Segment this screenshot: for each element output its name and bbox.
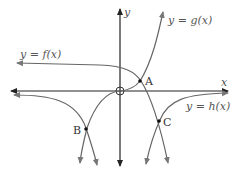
curve-g [120, 12, 163, 91]
curve-f [100, 65, 168, 163]
function-graph: A B C y x y = f(x) y = g(x) y = h(x) [0, 0, 235, 171]
curve-f-left-tail [17, 63, 100, 65]
curve-h-label: y = h(x) [185, 100, 230, 113]
curve-h-left-lower [86, 128, 97, 165]
y-axis-label: y [123, 6, 131, 19]
point-b-label: B [73, 124, 81, 137]
point-a-label: A [144, 75, 154, 88]
curve-f-label: y = f(x) [19, 48, 61, 61]
point-c-label: C [163, 116, 171, 129]
curve-h-right-lower [146, 120, 160, 164]
point-c [157, 119, 161, 123]
point-a [138, 79, 142, 83]
curve-g-label: y = g(x) [167, 14, 212, 27]
point-b [84, 127, 88, 131]
x-axis-label: x [221, 76, 228, 89]
